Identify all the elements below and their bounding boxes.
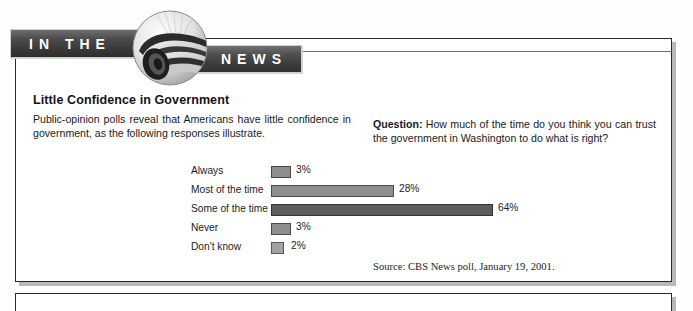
feature-box: Little Confidence in Government Public-o…	[15, 38, 672, 282]
chart-source-note: Source: CBS News poll, January 19, 2001.	[373, 261, 555, 272]
chart-row: Don't know 2%	[16, 239, 671, 258]
bar	[271, 185, 394, 197]
second-feature-box	[15, 293, 672, 311]
bar-track	[271, 185, 394, 197]
chart-category-label: Don't know	[191, 241, 241, 252]
bar-track	[271, 166, 291, 178]
chart-category-label: Most of the time	[191, 184, 263, 195]
bar-track	[271, 242, 284, 254]
bar-value-label: 3%	[296, 221, 311, 232]
feature-content: Little Confidence in Government Public-o…	[16, 39, 671, 281]
bar-track	[271, 223, 291, 235]
bar-value-label: 28%	[399, 183, 419, 194]
bar	[271, 223, 291, 235]
poll-question: Question: How much of the time do you th…	[373, 117, 656, 145]
banner-rule	[300, 51, 672, 52]
lede-paragraph: Public-opinion polls reveal that America…	[33, 112, 351, 140]
chart-category-label: Never	[191, 222, 218, 233]
banner-label-news: NEWS	[221, 51, 287, 67]
chart-row: Never 3%	[16, 220, 671, 239]
bar	[271, 166, 291, 178]
bar	[271, 204, 493, 216]
chart-category-label: Always	[191, 165, 223, 176]
bar-value-label: 3%	[296, 164, 311, 175]
question-label: Question:	[373, 118, 422, 130]
chart-row: Always 3%	[16, 163, 671, 182]
chart-row: Some of the time 64%	[16, 201, 671, 220]
bar-track	[271, 204, 493, 216]
bar	[271, 242, 284, 254]
newspaper-roll-icon	[131, 9, 209, 87]
chart-category-label: Some of the time	[191, 203, 268, 214]
poll-bar-chart: Always 3% Most of the time 28% Some of t…	[16, 163, 671, 258]
banner-label-in-the: IN THE	[29, 36, 111, 52]
page-root: Little Confidence in Government Public-o…	[0, 0, 693, 311]
bar-value-label: 2%	[291, 240, 306, 251]
page-title: Little Confidence in Government	[33, 93, 229, 107]
bar-value-label: 64%	[498, 202, 518, 213]
chart-row: Most of the time 28%	[16, 182, 671, 201]
